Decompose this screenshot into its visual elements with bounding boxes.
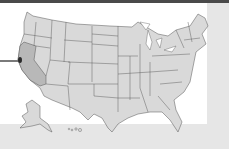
state-hawaii — [68, 128, 81, 132]
location-marker[interactable] — [18, 57, 22, 63]
us-outline — [18, 12, 208, 132]
state-alaska — [20, 100, 52, 132]
leader-line — [0, 60, 18, 62]
us-map — [0, 0, 229, 149]
